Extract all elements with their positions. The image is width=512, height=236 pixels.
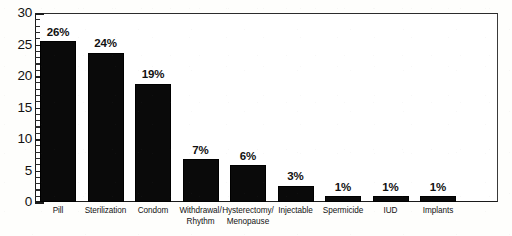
bar[interactable] bbox=[183, 159, 219, 202]
bar-group[interactable]: 7% bbox=[183, 141, 219, 202]
bar-value-label: 26% bbox=[47, 27, 70, 39]
bar-group[interactable]: 1% bbox=[373, 178, 409, 202]
x-category-label: Implants bbox=[412, 205, 464, 216]
x-axis-category-labels: PillSterilizationCondomWithdrawal/ Rhyth… bbox=[0, 205, 512, 236]
bar-group[interactable]: 19% bbox=[135, 66, 171, 202]
bar-value-label: 3% bbox=[287, 171, 303, 183]
bar[interactable] bbox=[373, 196, 409, 202]
bar[interactable] bbox=[135, 84, 171, 202]
bar[interactable] bbox=[40, 41, 76, 202]
bar-group[interactable]: 1% bbox=[420, 178, 456, 202]
bar-group[interactable]: 6% bbox=[230, 147, 266, 202]
bar-value-label: 24% bbox=[94, 38, 117, 50]
bar-group[interactable]: 24% bbox=[88, 35, 124, 202]
bar-value-label: 19% bbox=[142, 69, 165, 81]
bar-value-label: 7% bbox=[192, 145, 208, 157]
x-category-label: Pill bbox=[32, 205, 84, 216]
bar-group[interactable]: 3% bbox=[278, 168, 314, 202]
x-category-label: Sterilization bbox=[80, 205, 132, 216]
bar-value-label: 6% bbox=[240, 151, 256, 163]
bar-value-label: 1% bbox=[335, 182, 351, 194]
x-category-label: Condom bbox=[127, 205, 179, 216]
bar-value-label: 1% bbox=[382, 182, 398, 194]
x-category-label: Spermicide bbox=[317, 205, 369, 216]
bar-group[interactable]: 1% bbox=[325, 178, 361, 202]
bar[interactable] bbox=[88, 53, 124, 202]
bar-chart: 051015202530 26%24%19%7%6%3%1%1%1% PillS… bbox=[0, 0, 512, 236]
x-category-label: Withdrawal/ Rhythm bbox=[175, 205, 227, 227]
bar[interactable] bbox=[325, 196, 361, 202]
bar[interactable] bbox=[420, 196, 456, 202]
bar-group[interactable]: 26% bbox=[40, 23, 76, 202]
x-category-label: Injectable bbox=[270, 205, 322, 216]
bar[interactable] bbox=[278, 186, 314, 202]
bar-value-label: 1% bbox=[430, 182, 446, 194]
x-category-label: Hysterectomy/ Menopause bbox=[222, 205, 274, 227]
bars-layer: 26%24%19%7%6%3%1%1%1% bbox=[0, 0, 512, 236]
bar[interactable] bbox=[230, 165, 266, 202]
x-category-label: IUD bbox=[365, 205, 417, 216]
